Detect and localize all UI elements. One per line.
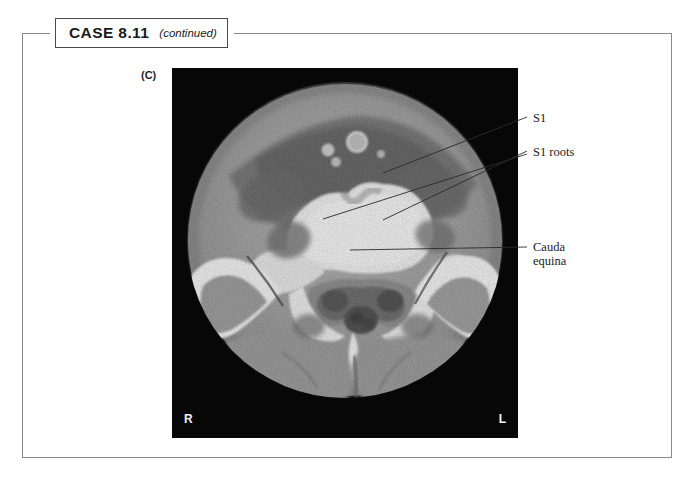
case-number-label: CASE 8.11	[69, 24, 149, 42]
case-continued-label: (continued)	[159, 27, 217, 39]
annotation-label-cauda-line2: equina	[533, 254, 566, 268]
orientation-marker-right: R	[184, 412, 193, 426]
ct-field-of-view	[185, 80, 505, 400]
annotation-label-cauda-equina: Cauda equina	[533, 240, 566, 268]
panel-letter-label: (C)	[141, 69, 156, 81]
annotation-label-s1-roots: S1 roots	[533, 145, 574, 159]
ct-image-panel: R L	[172, 68, 518, 438]
orientation-marker-left: L	[499, 412, 506, 426]
annotation-label-cauda-line1: Cauda	[533, 240, 566, 254]
case-header-box: CASE 8.11 (continued)	[55, 18, 228, 48]
ct-axial-slice-graphic	[185, 80, 505, 400]
annotation-label-s1: S1	[533, 111, 546, 125]
